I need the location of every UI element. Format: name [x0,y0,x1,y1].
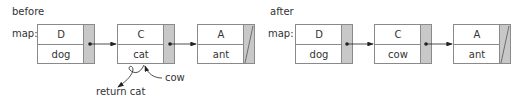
cow-insert-arrow-icon [145,66,162,78]
return-cat-arrow-icon [118,65,144,87]
before-null-slash-icon [245,26,253,63]
after-link-c-a-arrow-icon [424,42,452,46]
after-null-slash-icon [501,26,509,63]
connectors-overlay [0,0,522,99]
after-link-d-c-arrow-icon [345,42,373,46]
before-link-d-c-arrow-icon [88,42,116,46]
before-link-c-a-arrow-icon [168,42,196,46]
